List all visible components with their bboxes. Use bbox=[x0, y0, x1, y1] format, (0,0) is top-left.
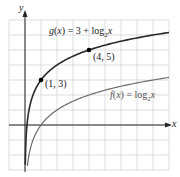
y-axis-label: y bbox=[19, 2, 23, 13]
f-function-label: f(x) = log2x bbox=[110, 89, 155, 103]
point-label-1-3: (1, 3) bbox=[45, 78, 67, 89]
x-axis-arrow-icon bbox=[165, 123, 172, 128]
point-1-3 bbox=[39, 78, 44, 83]
x-axis bbox=[9, 123, 172, 128]
g-function-label: g(x) = 3 + log2x bbox=[49, 25, 112, 39]
point-4-5 bbox=[87, 48, 92, 53]
point-label-4-5: (4, 5) bbox=[93, 51, 115, 62]
x-axis-label: x bbox=[172, 118, 176, 129]
